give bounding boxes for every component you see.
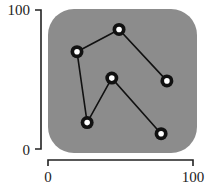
x-tick-label-max: 100	[182, 169, 205, 185]
data-point-marker	[160, 74, 173, 87]
scatter-line-chart: 100 0 0 100	[0, 0, 209, 190]
y-axis: 100 0	[8, 2, 42, 158]
data-point-marker	[71, 45, 84, 58]
x-axis: 0 100	[44, 160, 204, 185]
y-tick-label-min: 0	[23, 142, 31, 158]
data-point-marker	[113, 23, 126, 36]
data-point-marker	[81, 116, 94, 129]
x-tick-label-min: 0	[44, 169, 52, 185]
data-point-marker	[155, 127, 168, 140]
y-tick-label-max: 100	[8, 2, 31, 18]
data-point-marker	[105, 72, 118, 85]
